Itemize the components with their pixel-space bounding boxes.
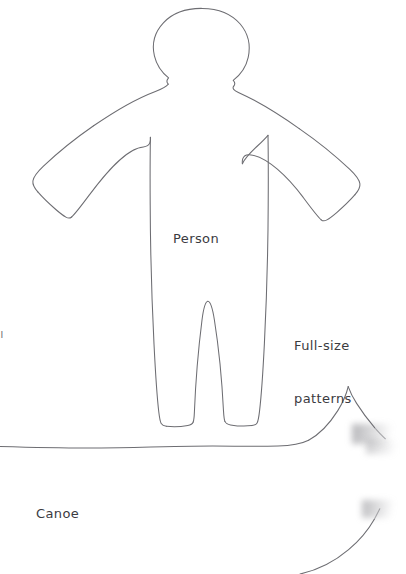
pattern-artwork (0, 0, 406, 574)
person-pattern-label: Person (173, 230, 219, 248)
clipped-edge-mark: | (0, 329, 4, 338)
caption-line-1: Full-size (294, 337, 352, 355)
caption-line-2: patterns (294, 390, 352, 408)
canoe-pattern-label: Canoe (36, 505, 79, 523)
full-size-patterns-caption: Full-size patterns (294, 302, 352, 442)
pattern-page: Person Canoe Full-size patterns | (0, 0, 406, 574)
